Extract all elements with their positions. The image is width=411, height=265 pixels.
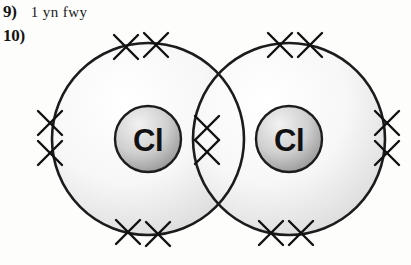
worksheet-page: 9) 1 yn fwy 10) [0, 0, 411, 265]
diagram-canvas: Cl Cl [0, 0, 411, 265]
right-atom-symbol: Cl [274, 123, 304, 158]
left-atom-symbol: Cl [133, 123, 163, 158]
cl2-dot-and-cross-diagram: Cl Cl [0, 0, 411, 265]
